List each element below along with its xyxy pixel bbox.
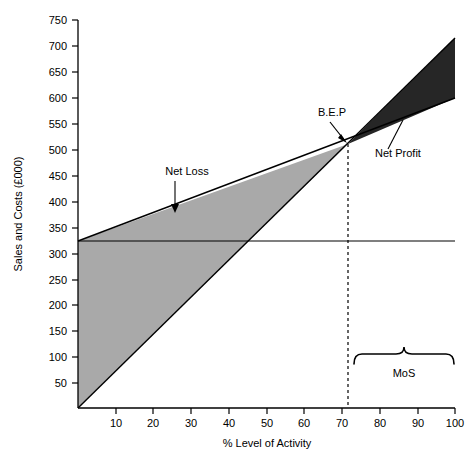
y-tick-400: 400 xyxy=(49,196,67,208)
y-tick-350: 350 xyxy=(49,222,67,234)
x-tick-50: 50 xyxy=(261,417,273,429)
y-tick-50: 50 xyxy=(55,377,67,389)
net-loss-label: Net Loss xyxy=(165,165,209,177)
y-tick-700: 700 xyxy=(49,40,67,52)
y-tick-600: 600 xyxy=(49,92,67,104)
x-tick-70: 70 xyxy=(336,417,348,429)
x-tick-30: 30 xyxy=(185,417,197,429)
net-profit-label: Net Profit xyxy=(375,147,421,159)
x-tick-40: 40 xyxy=(223,417,235,429)
break-even-chart: 750 700 650 600 550 500 450 400 350 300 … xyxy=(0,0,472,463)
y-tick-150: 150 xyxy=(49,325,67,337)
y-tick-250: 250 xyxy=(49,274,67,286)
y-tick-650: 650 xyxy=(49,66,67,78)
x-tick-10: 10 xyxy=(110,417,122,429)
y-tick-300: 300 xyxy=(49,248,67,260)
y-axis-tick-labels: 750 700 650 600 550 500 450 400 350 300 … xyxy=(49,14,67,389)
y-tick-550: 550 xyxy=(49,118,67,130)
x-axis-title: % Level of Activity xyxy=(223,437,312,449)
y-tick-100: 100 xyxy=(49,351,67,363)
y-tick-750: 750 xyxy=(49,14,67,26)
y-tick-200: 200 xyxy=(49,299,67,311)
y-tick-450: 450 xyxy=(49,170,67,182)
mos-label: MoS xyxy=(393,367,416,379)
x-tick-60: 60 xyxy=(298,417,310,429)
y-axis-title: Sales and Costs (£000) xyxy=(12,157,24,272)
x-tick-80: 80 xyxy=(374,417,386,429)
y-tick-500: 500 xyxy=(49,144,67,156)
chart-canvas: 750 700 650 600 550 500 450 400 350 300 … xyxy=(0,0,472,463)
bep-label: B.E.P xyxy=(318,106,346,118)
x-tick-100: 100 xyxy=(446,417,464,429)
x-tick-90: 90 xyxy=(412,417,424,429)
x-tick-20: 20 xyxy=(147,417,159,429)
